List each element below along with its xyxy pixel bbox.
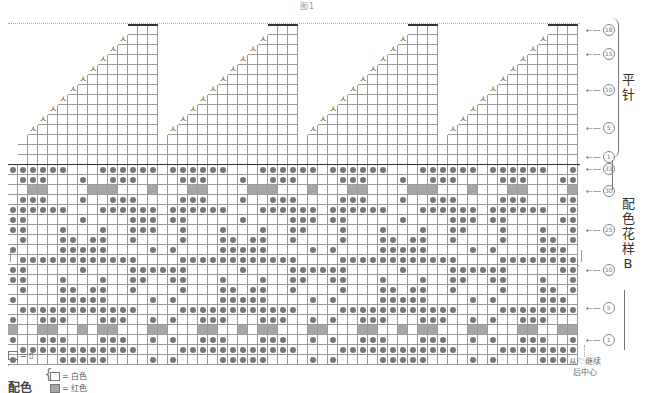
grid-cell: ㅅ bbox=[168, 125, 178, 135]
grid-cell bbox=[98, 205, 108, 215]
dot-icon bbox=[80, 267, 86, 273]
grid-cell bbox=[278, 125, 288, 135]
grid-cell bbox=[218, 125, 228, 135]
arrow-left-icon: ←— bbox=[586, 226, 601, 235]
dot-icon bbox=[540, 277, 546, 283]
grid-cell bbox=[98, 275, 108, 285]
grid-cell bbox=[268, 175, 278, 185]
grid-cell bbox=[108, 255, 118, 265]
grid-cell bbox=[498, 85, 508, 95]
dot-icon bbox=[80, 307, 86, 313]
grid-cell bbox=[398, 285, 408, 295]
grid-cell bbox=[338, 265, 348, 275]
grid-cell bbox=[388, 55, 398, 65]
grid-cell bbox=[138, 175, 148, 185]
grid-cell bbox=[478, 185, 488, 195]
dot-icon bbox=[230, 257, 236, 263]
dot-icon bbox=[20, 207, 26, 213]
grid-cell bbox=[348, 105, 358, 115]
grid-cell bbox=[218, 315, 228, 325]
dot-icon bbox=[470, 317, 476, 323]
grid-cell bbox=[368, 325, 378, 335]
grid-cell bbox=[198, 335, 208, 345]
grid-cell bbox=[538, 165, 548, 175]
grid-cell bbox=[358, 185, 368, 195]
grid-cell bbox=[418, 235, 428, 245]
dot-icon bbox=[480, 267, 486, 273]
grid-cell bbox=[548, 245, 558, 255]
grid-cell bbox=[398, 185, 408, 195]
decrease-icon: ㅅ bbox=[229, 65, 237, 74]
grid-cell bbox=[338, 345, 348, 355]
grid-cell bbox=[508, 315, 518, 325]
grid-cell bbox=[188, 325, 198, 335]
grid-cell bbox=[308, 165, 318, 175]
grid-cell bbox=[158, 145, 168, 155]
grid-cell bbox=[308, 315, 318, 325]
grid-cell bbox=[568, 235, 578, 245]
dot-icon bbox=[470, 247, 476, 253]
dot-icon bbox=[560, 177, 566, 183]
dot-icon bbox=[290, 347, 296, 353]
decrease-icon: ㅅ bbox=[479, 95, 487, 104]
grid-cell bbox=[238, 95, 248, 105]
grid-cell bbox=[268, 285, 278, 295]
grid-cell bbox=[408, 295, 418, 305]
grid-cell bbox=[68, 185, 78, 195]
grid-cell bbox=[298, 255, 308, 265]
grid-cell bbox=[208, 345, 218, 355]
grid-cell bbox=[368, 255, 378, 265]
grid-cell bbox=[148, 95, 158, 105]
grid-cell bbox=[278, 105, 288, 115]
grid-cell bbox=[428, 325, 438, 335]
grid-cell bbox=[298, 225, 308, 235]
grid-cell bbox=[128, 185, 138, 195]
grid-cell bbox=[298, 315, 308, 325]
grid-cell bbox=[78, 295, 88, 305]
grid-cell bbox=[248, 125, 258, 135]
dot-icon bbox=[180, 277, 186, 283]
grid-cell bbox=[558, 195, 568, 205]
grid-cell bbox=[58, 305, 68, 315]
grid-cell bbox=[408, 335, 418, 345]
grid-cell bbox=[378, 285, 388, 295]
grid-cell bbox=[348, 225, 358, 235]
dot-icon bbox=[50, 167, 56, 173]
grid-cell bbox=[98, 305, 108, 315]
grid-cell bbox=[378, 75, 388, 85]
dot-icon bbox=[400, 217, 406, 223]
dot-icon bbox=[70, 237, 76, 243]
dot-icon bbox=[420, 167, 426, 173]
dot-icon bbox=[380, 237, 386, 243]
dot-icon bbox=[200, 337, 206, 343]
grid-cell bbox=[38, 215, 48, 225]
grid-cell bbox=[168, 135, 178, 145]
dot-icon bbox=[460, 277, 466, 283]
dot-icon bbox=[230, 307, 236, 313]
grid-cell bbox=[388, 125, 398, 135]
dot-icon bbox=[210, 207, 216, 213]
grid-cell bbox=[358, 195, 368, 205]
grid-cell bbox=[188, 175, 198, 185]
grid-cell bbox=[518, 65, 528, 75]
decrease-icon: ㅅ bbox=[199, 95, 207, 104]
grid-cell bbox=[28, 325, 38, 335]
grid-cell bbox=[468, 325, 478, 335]
grid-cell bbox=[58, 295, 68, 305]
grid-cell bbox=[98, 75, 108, 85]
grid-cell bbox=[248, 215, 258, 225]
grid-cell bbox=[198, 215, 208, 225]
grid-cell bbox=[208, 165, 218, 175]
grid-cell bbox=[198, 115, 208, 125]
grid-cell bbox=[178, 165, 188, 175]
grid-cell bbox=[538, 65, 548, 75]
grid-cell bbox=[78, 235, 88, 245]
dot-icon bbox=[450, 227, 456, 233]
grid-cell bbox=[148, 115, 158, 125]
grid-cell bbox=[268, 145, 278, 155]
grid-cell bbox=[428, 215, 438, 225]
grid-cell bbox=[488, 165, 498, 175]
grid-cell bbox=[128, 145, 138, 155]
grid-cell bbox=[118, 355, 128, 365]
grid-cell bbox=[548, 145, 558, 155]
